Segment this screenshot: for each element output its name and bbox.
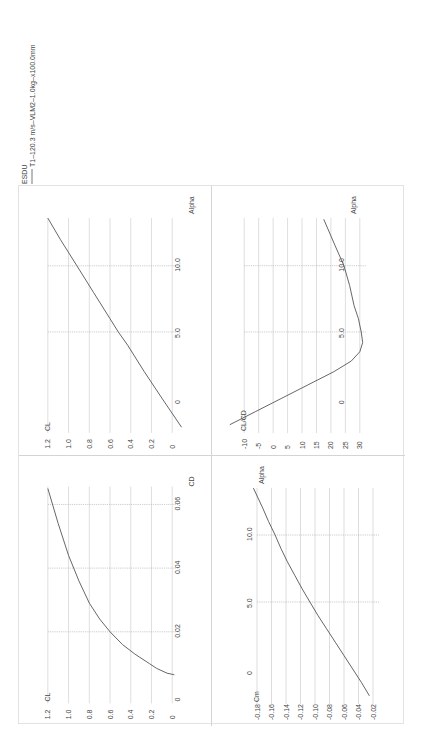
y-tick-label: -10 — [241, 439, 248, 449]
y-tick-label: -0.06 — [341, 704, 348, 720]
y-tick-label: 0.2 — [148, 710, 155, 720]
chart-cl-cd: 00.20.40.60.81.01.200.020.040.06CDCL — [19, 456, 211, 726]
y-axis-label: CL/CD — [240, 410, 247, 431]
y-tick-label: 1.2 — [44, 710, 51, 720]
y-tick-label: -0.12 — [297, 704, 304, 720]
y-tick-label: 0.8 — [86, 439, 93, 449]
y-tick-label: 5 — [284, 445, 291, 449]
x-axis-label: Alpha — [350, 196, 358, 214]
data-series-line — [48, 489, 174, 675]
panel-cm-vs-alpha: -0.02-0.04-0.06-0.08-0.10-0.12-0.14-0.16… — [212, 456, 405, 726]
y-tick-label: 15 — [313, 441, 320, 449]
y-tick-label: -0.04 — [355, 704, 362, 720]
chart-frame: 00.20.40.60.81.01.205.010.0AlphaCL -10-5… — [18, 185, 404, 724]
y-tick-label: 10 — [299, 441, 306, 449]
x-tick-label: 0 — [338, 400, 345, 404]
y-tick-label: 1.0 — [65, 439, 72, 449]
chart-legend: ESDU T1–120.3 m/s–VLM2–1.0kg–x100.0mm — [18, 18, 40, 186]
y-tick-label: 1.2 — [44, 439, 51, 449]
data-series-line — [48, 218, 182, 427]
x-axis-label: Alpha — [188, 196, 196, 214]
panel-cl-vs-cd: 00.20.40.60.81.01.200.020.040.06CDCL — [19, 456, 212, 726]
y-tick-label: 0.4 — [127, 439, 134, 449]
x-tick-label: 0 — [174, 400, 181, 404]
x-tick-label: 5.0 — [246, 598, 253, 608]
panel-cl-vs-alpha: 00.20.40.60.81.01.205.010.0AlphaCL — [19, 186, 212, 456]
x-tick-label: 10.0 — [246, 527, 253, 541]
y-tick-label: 0.8 — [86, 710, 93, 720]
y-tick-label: 0.6 — [107, 439, 114, 449]
data-series-line — [230, 219, 363, 424]
y-tick-label: 0.2 — [148, 439, 155, 449]
data-series-line — [253, 488, 369, 696]
legend-series-label: T1–120.3 m/s–VLM2–1.0kg–x100.0mm — [29, 44, 37, 167]
panel-clcd-vs-alpha: -10-505101520253005.010.0AlphaCL/CD — [212, 186, 405, 456]
x-tick-label: 5.0 — [174, 328, 181, 338]
y-tick-label: -5 — [255, 443, 262, 449]
legend-svg: ESDU T1–120.3 m/s–VLM2–1.0kg–x100.0mm — [18, 18, 40, 186]
y-axis-label: CL — [44, 422, 51, 431]
y-axis-label: Cm — [253, 691, 260, 702]
chart-clcd-alpha: -10-505101520253005.010.0AlphaCL/CD — [212, 186, 405, 455]
x-tick-label: 0.04 — [174, 560, 181, 574]
y-tick-label: -0.16 — [268, 704, 275, 720]
x-tick-label: 10.0 — [174, 258, 181, 272]
chart-cm-alpha: -0.02-0.04-0.06-0.08-0.10-0.12-0.14-0.16… — [212, 456, 405, 726]
y-tick-label: -0.02 — [370, 704, 377, 720]
y-axis-label: CL — [44, 692, 51, 701]
y-tick-label: 1.0 — [65, 710, 72, 720]
y-tick-label: -0.08 — [326, 704, 333, 720]
y-tick-label: 0.4 — [127, 710, 134, 720]
y-tick-label: 20 — [327, 441, 334, 449]
y-tick-label: 30 — [356, 441, 363, 449]
legend-header: ESDU — [21, 165, 28, 184]
y-tick-label: 0 — [169, 445, 176, 449]
y-tick-label: -0.14 — [283, 704, 290, 720]
x-tick-label: 5.0 — [338, 328, 345, 338]
x-tick-label: 0 — [246, 671, 253, 675]
chart-cl-alpha: 00.20.40.60.81.01.205.010.0AlphaCL — [19, 186, 211, 455]
y-tick-label: -0.18 — [254, 704, 261, 720]
x-tick-label: 0 — [174, 697, 181, 701]
x-axis-label: Alpha — [258, 466, 266, 484]
x-axis-label: CD — [188, 476, 195, 486]
y-tick-label: 0.6 — [107, 710, 114, 720]
y-tick-label: 0 — [270, 445, 277, 449]
x-tick-label: 0.06 — [174, 497, 181, 511]
y-tick-label: 0 — [169, 715, 176, 719]
y-tick-label: 25 — [342, 441, 349, 449]
x-tick-label: 0.02 — [174, 624, 181, 638]
y-tick-label: -0.10 — [312, 704, 319, 720]
